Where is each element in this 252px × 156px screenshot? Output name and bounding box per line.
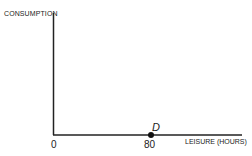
x-tick-0: 0 xyxy=(51,139,57,150)
x-axis-label: LEISURE (HOURS) xyxy=(185,138,247,145)
y-axis-label: CONSUMPTION xyxy=(4,10,58,17)
chart-plot xyxy=(0,0,252,156)
x-tick-80: 80 xyxy=(144,139,155,150)
point-d-label: D xyxy=(152,121,160,133)
